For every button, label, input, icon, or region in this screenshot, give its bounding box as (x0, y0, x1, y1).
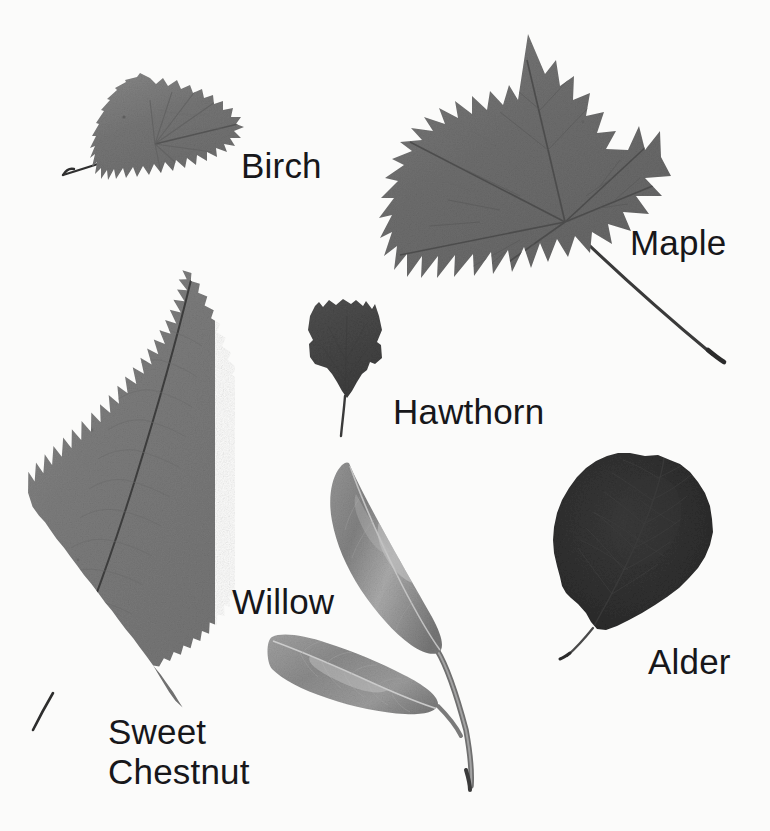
label-hawthorn: Hawthorn (393, 392, 544, 431)
leaf-willow (265, 455, 471, 790)
leaf-hawthorn (300, 292, 392, 436)
label-sweet-chestnut-line-1: Sweet (108, 712, 206, 751)
label-birch: Birch (241, 146, 322, 185)
label-sweet-chestnut-line-2: Chestnut (108, 752, 250, 791)
label-willow: Willow (232, 582, 334, 621)
leaf-identification-plate: Birch Maple Hawthorn SweetChestnut Willo… (0, 0, 770, 831)
leaf-maple (370, 28, 724, 362)
leaf-sweet-chestnut (20, 265, 215, 730)
leaf-alder (545, 445, 720, 659)
leaf-specimen-illustrations (0, 0, 770, 831)
label-maple: Maple (630, 223, 726, 262)
leaf-birch (63, 70, 255, 210)
label-alder: Alder (648, 642, 731, 681)
label-sweet-chestnut: SweetChestnut (108, 712, 250, 792)
